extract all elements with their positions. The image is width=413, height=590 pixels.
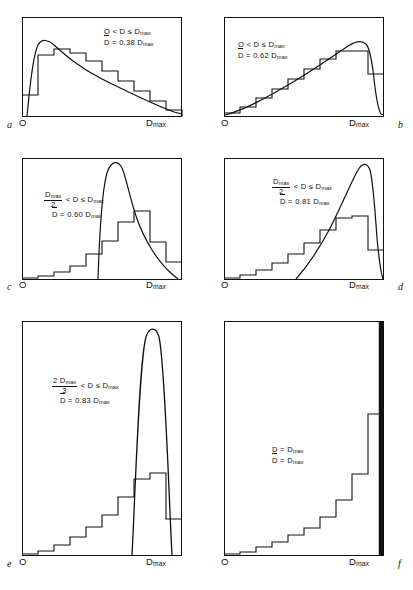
panel-e-max-label: Dmax — [146, 556, 166, 567]
panel-f: D = Dmax D = Dmax — [224, 321, 384, 556]
panel-b-mean: D = 0.62 Dmax — [238, 50, 288, 61]
panel-c-origin-label: O — [19, 279, 27, 290]
panel-d: Dmax2 < D ≤ Dmax D = 0.81 Dmax — [224, 158, 384, 280]
panel-f-max-label: Dmax — [349, 556, 369, 567]
panel-c-annotation: Dmax2 < D ≤ Dmax D = 0.60 Dmax — [44, 191, 104, 221]
panel-a-range: O < D ≤ Dmax — [104, 26, 154, 37]
panel-e-origin-label: O — [19, 556, 27, 567]
panel-letter-a: a — [7, 119, 12, 130]
panel-letter-c: c — [7, 281, 11, 292]
panel-b-range: O < D ≤ Dmax — [238, 39, 288, 50]
panel-b-origin-label: O — [221, 117, 229, 128]
panel-a-origin-label: O — [19, 117, 27, 128]
panel-c: Dmax2 < D ≤ Dmax D = 0.60 Dmax — [22, 158, 182, 280]
panel-b-frame — [225, 18, 384, 117]
figure-distribution-panels: O < D ≤ Dmax D = 0.38 Dmax a O Dmax O < … — [0, 0, 413, 590]
panel-e-annotation: 2 Dmax3 < D ≤ Dmax D = 0.83 Dmax — [52, 377, 119, 407]
panel-f-mean: D = Dmax — [272, 455, 303, 466]
panel-c-mean: D = 0.60 Dmax — [44, 209, 104, 220]
panel-d-plot — [224, 158, 384, 280]
panel-e-mean: D = 0.83 Dmax — [52, 395, 119, 406]
panel-b-max-label: Dmax — [349, 117, 369, 128]
panel-d-origin-label: O — [221, 279, 229, 290]
panel-c-max-label: Dmax — [146, 279, 166, 290]
panel-f-frame — [225, 322, 384, 556]
panel-e-plot — [22, 321, 182, 556]
panel-e: 2 Dmax3 < D ≤ Dmax D = 0.83 Dmax — [22, 321, 182, 556]
panel-d-mean: D = 0.81 Dmax — [272, 196, 332, 207]
panel-a: O < D ≤ Dmax D = 0.38 Dmax — [22, 17, 182, 117]
panel-a-mean: D = 0.38 Dmax — [104, 37, 154, 48]
panel-d-annotation: Dmax2 < D ≤ Dmax D = 0.81 Dmax — [272, 178, 332, 208]
panel-b-plot — [224, 17, 384, 117]
panel-f-annotation: D = Dmax D = Dmax — [272, 444, 303, 467]
panel-a-plot — [22, 17, 182, 117]
panel-f-origin-label: O — [221, 556, 229, 567]
panel-letter-d: d — [398, 281, 403, 292]
panel-b-annotation: O < D ≤ Dmax D = 0.62 Dmax — [238, 39, 288, 62]
panel-a-annotation: O < D ≤ Dmax D = 0.38 Dmax — [104, 26, 154, 49]
panel-d-max-label: Dmax — [349, 279, 369, 290]
panel-letter-e: e — [7, 558, 11, 569]
panel-b: O < D ≤ Dmax D = 0.62 Dmax — [224, 17, 384, 117]
panel-letter-f: f — [398, 558, 401, 569]
panel-a-max-label: Dmax — [146, 117, 166, 128]
panel-letter-b: b — [398, 119, 403, 130]
panel-f-plot — [224, 321, 384, 556]
panel-d-frame — [225, 159, 384, 280]
